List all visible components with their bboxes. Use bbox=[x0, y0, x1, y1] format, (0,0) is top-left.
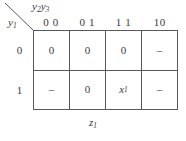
cell-value: 0 bbox=[121, 45, 127, 56]
column-header-00: 0 0 bbox=[33, 14, 69, 30]
row-variable-y1-sub: 1 bbox=[13, 21, 17, 30]
kmap-column-headers: 0 0 0 1 1 1 10 bbox=[33, 14, 178, 30]
kmap-cell-r0c0: 0 bbox=[34, 31, 69, 70]
kmap-row-headers: 0 1 bbox=[6, 30, 33, 110]
kmap-cell-r1c1: 0 bbox=[69, 71, 105, 110]
column-header-01: 0 1 bbox=[69, 14, 105, 30]
kmap-cell-r1c2: x1 bbox=[105, 71, 141, 110]
kmap-cell-r0c3: – bbox=[141, 31, 177, 70]
kmap-row-0: 0 0 0 – bbox=[34, 31, 177, 70]
cell-value: – bbox=[49, 84, 55, 95]
column-header-10: 10 bbox=[142, 14, 178, 30]
cell-value: 0 bbox=[49, 45, 55, 56]
kmap-cell-r1c3: – bbox=[141, 71, 177, 110]
row-header-1: 1 bbox=[6, 70, 33, 110]
cell-value: 0 bbox=[85, 45, 91, 56]
kmap-cell-r0c2: 0 bbox=[105, 31, 141, 70]
cell-value: – bbox=[157, 84, 163, 95]
column-header-11: 1 1 bbox=[106, 14, 142, 30]
kmap-grid: 0 0 0 – – 0 x1 – bbox=[33, 30, 178, 110]
karnaugh-map-figure: y2y3 y1 0 0 0 1 1 1 10 0 1 0 0 0 – bbox=[0, 0, 186, 141]
column-variable-y3-sub: 3 bbox=[46, 5, 50, 14]
cell-value: 0 bbox=[85, 84, 91, 95]
caption-subscript: 1 bbox=[93, 121, 97, 130]
row-header-0: 0 bbox=[6, 30, 33, 70]
kmap-cell-r0c1: 0 bbox=[69, 31, 105, 70]
kmap-caption: z1 bbox=[0, 116, 186, 130]
kmap-cell-r1c0: – bbox=[34, 71, 69, 110]
row-variable-label: y1 bbox=[8, 17, 17, 29]
column-variable-label: y2y3 bbox=[32, 1, 49, 13]
cell-value-subscript: 1 bbox=[124, 86, 128, 94]
kmap-row-1: – 0 x1 – bbox=[34, 70, 177, 110]
cell-value: – bbox=[157, 45, 163, 56]
